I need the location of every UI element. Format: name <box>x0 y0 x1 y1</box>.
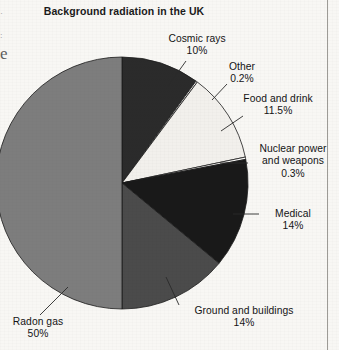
leader-line-radon-gas <box>40 287 68 315</box>
slice-label-radon-gas: Radon gas 50% <box>4 316 72 341</box>
slice-label-medical: Medical 14% <box>262 208 324 233</box>
scanned-page: Background radiation in the UK Cosmic ra… <box>0 0 339 350</box>
slice-label-ground-and-buildings: Ground and buildings 14% <box>183 305 305 330</box>
leader-line-other <box>212 84 227 100</box>
chart-title: Background radiation in the UK <box>14 5 234 18</box>
pie-slice-radon-gas <box>0 57 122 309</box>
slice-label-nuclear-power: Nuclear power and weapons 0.3% <box>251 143 335 180</box>
pie-slice-group <box>0 57 248 309</box>
slice-label-other: Other 0.2% <box>213 61 271 86</box>
slice-label-cosmic-rays: Cosmic rays 10% <box>157 33 237 58</box>
slice-label-food-and-drink: Food and drink 11.5% <box>229 93 327 118</box>
page-border-rule <box>327 0 328 350</box>
